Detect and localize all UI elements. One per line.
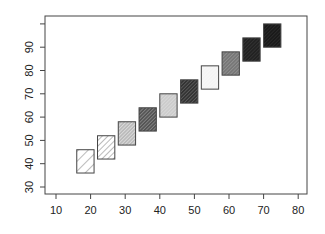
data-rect: [139, 108, 156, 131]
data-rect: [243, 38, 260, 61]
data-rect: [181, 80, 198, 103]
x-tick-label: 70: [257, 204, 269, 216]
y-tick-label: 60: [23, 111, 35, 123]
x-tick-label: 80: [292, 204, 304, 216]
x-tick-label: 60: [223, 204, 235, 216]
y-tick-label: 30: [23, 181, 35, 193]
x-tick-label: 10: [50, 204, 62, 216]
data-rect: [98, 136, 115, 159]
data-rect: [264, 24, 281, 47]
data-rect: [222, 52, 239, 75]
y-tick-label: 80: [23, 64, 35, 76]
y-axis: 30405060708090: [23, 24, 45, 193]
y-tick-label: 40: [23, 158, 35, 170]
x-tick-label: 30: [119, 204, 131, 216]
data-rect: [77, 150, 94, 173]
data-rect: [160, 94, 177, 117]
data-rect: [201, 66, 218, 89]
y-tick-label: 90: [23, 41, 35, 53]
x-tick-label: 40: [154, 204, 166, 216]
data-rect: [118, 122, 135, 145]
rect-chart: 1020304050607080 30405060708090: [0, 0, 325, 234]
data-rectangles: [77, 24, 281, 173]
x-axis: 1020304050607080: [50, 194, 304, 216]
y-tick-label: 50: [23, 134, 35, 146]
y-tick-label: 70: [23, 88, 35, 100]
x-tick-label: 50: [188, 204, 200, 216]
x-tick-label: 20: [84, 204, 96, 216]
